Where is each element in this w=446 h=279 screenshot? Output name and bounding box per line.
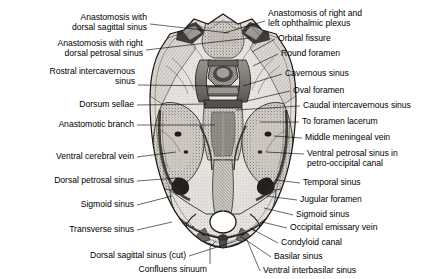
label-ventral-interbasilar-sinus: Ventral interbasilar sinus (263, 265, 356, 275)
label-ventral-cerebral-vein: Ventral cerebral vein (56, 151, 134, 161)
label-middle-meningeal-vein: Middle meningeal vein (305, 132, 390, 142)
label-occipital-emissary-vein: Occipital emissary vein (290, 222, 377, 232)
label-dorsal-sagittal-sinus-cut: Dorsal sagittal sinus (cut) (90, 250, 186, 260)
label-temporal-sinus: Temporal sinus (303, 177, 361, 187)
label-anastomosis-dorsal-sagittal-sinus: Anastomosis with dorsal sagittal sinus (72, 12, 147, 33)
label-transverse-sinus: Transverse sinus (69, 224, 134, 234)
label-orbital-fissure: Orbital fissure (278, 33, 331, 43)
label-sigmoid-sinus-right: Sigmoid sinus (296, 209, 349, 219)
label-basilar-sinus: Basilar sinus (274, 251, 322, 261)
label-condyloid-canal: Condyloid canal (281, 237, 342, 247)
label-anastomotic-branch: Anastomotic branch (58, 119, 134, 129)
label-round-foramen: Round foramen (281, 48, 340, 58)
anatomy-figure: Anastomosis with dorsal sagittal sinusAn… (0, 0, 446, 279)
label-anastomosis-right-left-ophthalmic-plexus: Anastomosis of right and left ophthalmic… (268, 8, 362, 29)
label-dorsum-sellae: Dorsum sellae (79, 99, 134, 109)
label-anastomosis-right-dorsal-petrosal-sinus: Anastomosis with right dorsal petrosal s… (57, 38, 143, 59)
label-dorsal-petrosal-sinus: Dorsal petrosal sinus (54, 175, 134, 185)
label-cavernous-sinus: Cavernous sinus (285, 68, 349, 78)
label-to-foramen-lacerum: To foramen lacerum (302, 116, 378, 126)
label-oval-foramen: Oval foramen (293, 85, 344, 95)
label-jugular-foramen: Jugular foramen (300, 194, 362, 204)
label-sigmoid-sinus-left: Sigmoid sinus (81, 199, 134, 209)
label-caudal-intercavernous-sinus: Caudal intercavernous sinus (303, 100, 411, 110)
label-confluens-sinuum: Confluens sinuum (139, 264, 207, 274)
label-rostral-intercavernous-sinus: Rostral intercavernous sinus (49, 66, 135, 87)
label-ventral-petrosal-sinus: Ventral petrosal sinus in petro-occipita… (307, 148, 398, 169)
